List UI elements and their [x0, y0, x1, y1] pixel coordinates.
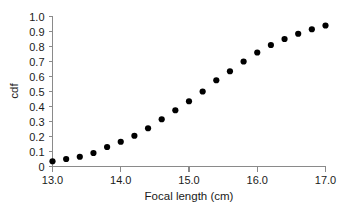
data-point	[268, 42, 274, 48]
y-tick-label: 0.4	[29, 101, 44, 113]
data-point	[49, 158, 55, 164]
data-point	[281, 36, 287, 42]
x-axis-title: Focal length (cm)	[145, 190, 234, 202]
data-point	[213, 77, 219, 83]
data-point	[63, 156, 69, 162]
x-axis-ticks: 13.014.015.016.017.0	[42, 167, 336, 186]
y-axis-title: cdf	[8, 83, 20, 99]
y-tick-label: 0.8	[29, 41, 44, 53]
data-point	[145, 125, 151, 131]
y-axis-ticks: 00.10.20.30.40.50.60.70.80.91.0	[29, 11, 52, 173]
data-point	[295, 31, 301, 37]
y-axis-group: 00.10.20.30.40.50.60.70.80.91.0	[29, 11, 52, 173]
x-tick-label: 15.0	[178, 174, 199, 186]
y-tick-label: 0.7	[29, 56, 44, 68]
x-tick-label: 17.0	[315, 174, 336, 186]
x-tick-label: 16.0	[247, 174, 268, 186]
y-tick-label: 0.9	[29, 26, 44, 38]
y-tick-label: 0	[38, 161, 44, 173]
data-point-series	[49, 22, 328, 164]
x-tick-label: 14.0	[110, 174, 131, 186]
data-point	[90, 150, 96, 156]
y-tick-label: 1.0	[29, 11, 44, 23]
data-point	[172, 107, 178, 113]
y-tick-label: 0.3	[29, 116, 44, 128]
y-tick-label: 0.2	[29, 131, 44, 143]
data-point	[241, 58, 247, 64]
data-point	[227, 68, 233, 74]
x-tick-label: 13.0	[42, 174, 63, 186]
data-point	[159, 116, 165, 122]
data-point	[104, 144, 110, 150]
data-point	[131, 133, 137, 139]
data-point	[118, 139, 124, 145]
data-point	[309, 26, 315, 32]
x-axis-group: 13.014.015.016.017.0	[42, 167, 336, 186]
data-point	[322, 22, 328, 28]
y-tick-label: 0.6	[29, 71, 44, 83]
data-point	[77, 154, 83, 160]
chart-page: 00.10.20.30.40.50.60.70.80.91.0 13.014.0…	[0, 0, 346, 210]
cdf-scatter-chart: 00.10.20.30.40.50.60.70.80.91.0 13.014.0…	[0, 0, 346, 210]
data-point	[254, 49, 260, 55]
y-tick-label: 0.5	[29, 86, 44, 98]
data-point	[186, 98, 192, 104]
data-point	[200, 88, 206, 94]
y-tick-label: 0.1	[29, 146, 44, 158]
